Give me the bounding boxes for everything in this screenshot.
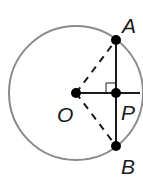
point-a [111,35,121,45]
label-o: O [57,103,73,126]
point-o [71,88,81,98]
label-a: A [120,14,136,37]
radius-oa-dashed [76,40,116,93]
radius-ob-dashed [76,93,116,146]
label-p: P [121,101,135,124]
circle-diagram: A O P B [0,0,143,185]
point-p [111,88,121,98]
label-b: B [121,155,135,178]
point-b [111,141,121,151]
